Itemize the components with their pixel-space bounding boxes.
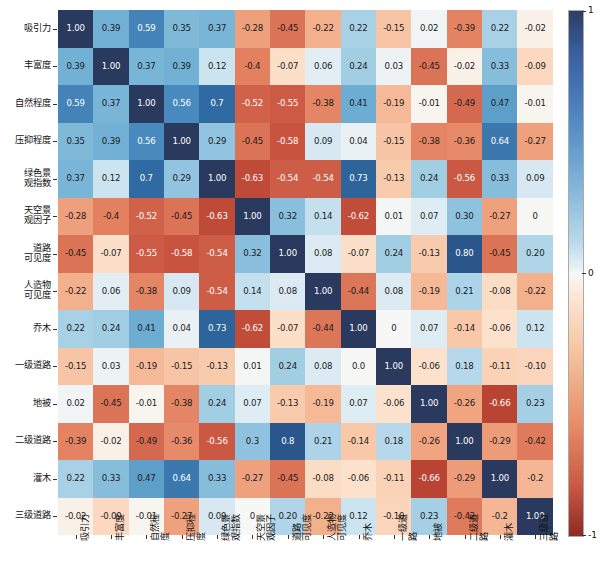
heatmap-cell: 1.00 [93, 48, 128, 86]
heatmap-cell: 1.00 [482, 460, 517, 498]
x-axis-tick [111, 535, 112, 539]
heatmap-plot-area: 1.000.390.590.350.37-0.28-0.45-0.220.22-… [58, 10, 553, 535]
heatmap-cell-value: -0.54 [199, 287, 234, 296]
heatmap-cell: 0.37 [199, 10, 234, 48]
heatmap-cell-value: -0.11 [482, 362, 517, 371]
heatmap-cell-value: -0.06 [376, 399, 411, 408]
heatmap-cell-value: -0.01 [517, 99, 553, 108]
y-axis-label: 丰富度 [24, 48, 51, 83]
heatmap-cell-value: -0.07 [93, 249, 128, 258]
heatmap-cell: 0.37 [93, 85, 128, 123]
heatmap-cell: 1.00 [447, 423, 482, 461]
heatmap-cell: -0.13 [411, 235, 446, 273]
heatmap-cell-value: -0.14 [447, 324, 482, 333]
heatmap-cell-value: 0.12 [517, 324, 553, 333]
heatmap-cell-value: -0.29 [482, 437, 517, 446]
heatmap-cell: -0.15 [164, 348, 199, 386]
heatmap-cell: 0.30 [447, 198, 482, 236]
heatmap-cell: -0.28 [58, 198, 93, 236]
heatmap-cell-value: 0.29 [199, 137, 234, 146]
x-axis-label: 吸引力 [80, 508, 90, 541]
heatmap-cell-value: -0.07 [270, 324, 305, 333]
heatmap-cell-value: -0.49 [129, 437, 164, 446]
heatmap-cell: 0.18 [376, 423, 411, 461]
heatmap-cell: -0.22 [305, 10, 340, 48]
heatmap-cell-value: -0.06 [482, 324, 517, 333]
heatmap-cell: 0.33 [482, 48, 517, 86]
heatmap-cell-value: -0.19 [305, 399, 340, 408]
heatmap-cell-value: 0.22 [58, 324, 93, 333]
heatmap-cell: 0.24 [199, 385, 234, 423]
heatmap-cell: -0.55 [129, 235, 164, 273]
heatmap-cell-value: 0.64 [164, 474, 199, 483]
heatmap-cell-value: 1.00 [305, 287, 340, 296]
colorbar-tick [582, 535, 586, 536]
heatmap-cell: 0 [376, 310, 411, 348]
heatmap-cell: -0.45 [93, 385, 128, 423]
heatmap-cell-value: 0.06 [93, 287, 128, 296]
heatmap-cell-value: -0.10 [517, 362, 553, 371]
heatmap-cell: 0.07 [235, 385, 270, 423]
heatmap-cell: -0.19 [411, 273, 446, 311]
heatmap-cell-value: 0.20 [517, 249, 553, 258]
heatmap-cell: -0.27 [517, 123, 553, 161]
y-axis-tick [53, 516, 57, 517]
heatmap-cell-value: 0.73 [199, 324, 234, 333]
heatmap-cell-value: 0.0 [341, 362, 376, 371]
colorbar-tick [582, 273, 586, 274]
heatmap-cell-value: -0.29 [447, 474, 482, 483]
heatmap-cell: -0.62 [341, 198, 376, 236]
y-axis-label: 绿色景 观指数 [24, 160, 51, 195]
heatmap-cell-value: 0.30 [447, 212, 482, 221]
heatmap-cell-value: -0.39 [447, 24, 482, 33]
y-axis-tick [53, 291, 57, 292]
heatmap-cell-value: -0.45 [58, 249, 93, 258]
heatmap-cell-value: -0.42 [517, 437, 553, 446]
heatmap-cell: 0.20 [517, 235, 553, 273]
heatmap-cell-value: -0.39 [58, 437, 93, 446]
heatmap-cell: -0.22 [58, 273, 93, 311]
heatmap-cell-value: 1.00 [58, 24, 93, 33]
heatmap-cell-value: 0.35 [164, 24, 199, 33]
heatmap-cell: -0.44 [305, 310, 340, 348]
heatmap-cell-value: -0.13 [199, 362, 234, 371]
heatmap-cell-value: -0.09 [517, 62, 553, 71]
heatmap-cell: 0.08 [270, 273, 305, 311]
heatmap-cell-value: -0.52 [129, 212, 164, 221]
heatmap-cell-value: -0.54 [270, 174, 305, 183]
x-axis-tick [394, 535, 395, 539]
heatmap-cell-value: 0.32 [235, 249, 270, 258]
y-axis-tick [53, 179, 57, 180]
heatmap-cell: -0.52 [235, 85, 270, 123]
heatmap-cell-value: -0.19 [411, 287, 446, 296]
heatmap-cell: -0.07 [270, 48, 305, 86]
heatmap-cell: 1.00 [341, 310, 376, 348]
heatmap-cell-value: -0.28 [235, 24, 270, 33]
heatmap-row: -0.220.06-0.380.09-0.540.140.081.00-0.44… [58, 273, 553, 311]
heatmap-cell-value: -0.36 [447, 137, 482, 146]
heatmap-cell-value: 1.00 [93, 62, 128, 71]
heatmap-cell-value: 0.21 [447, 287, 482, 296]
heatmap-cell-value: 0.03 [376, 62, 411, 71]
heatmap-cell: -0.27 [235, 460, 270, 498]
heatmap-cell-value: -0.4 [93, 212, 128, 221]
x-axis-label: 丰富度 [115, 508, 125, 541]
heatmap-row: -0.28-0.4-0.52-0.45-0.631.000.320.14-0.6… [58, 198, 553, 236]
heatmap-cell-value: 0.03 [93, 362, 128, 371]
heatmap-cell-value: 0.14 [235, 287, 270, 296]
heatmap-cell: 1.00 [305, 273, 340, 311]
heatmap-cell-value: 0.7 [129, 174, 164, 183]
heatmap-cell-value: -0.26 [447, 399, 482, 408]
heatmap-cell: -0.38 [305, 85, 340, 123]
heatmap-cell-value: 1.00 [341, 324, 376, 333]
heatmap-cell-value: 0.07 [341, 399, 376, 408]
heatmap-cell-value: -0.08 [305, 474, 340, 483]
heatmap-cell-value: 0.24 [411, 174, 446, 183]
heatmap-cell-value: 0.47 [129, 474, 164, 483]
heatmap-cell: -0.54 [270, 160, 305, 198]
heatmap-cell: -0.63 [235, 160, 270, 198]
heatmap-row: 0.220.330.470.640.33-0.27-0.45-0.08-0.06… [58, 460, 553, 498]
heatmap-cell-value: 0.01 [235, 362, 270, 371]
heatmap-cell-value: 0.7 [199, 99, 234, 108]
x-axis-tick [359, 535, 360, 539]
